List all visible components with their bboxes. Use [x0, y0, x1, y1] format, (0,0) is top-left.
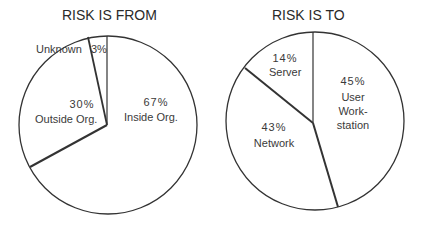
label-user-pct: 45% [338, 75, 368, 88]
label-user-1: User [336, 91, 370, 104]
risk-to-pie [226, 32, 404, 210]
label-user-3: station [331, 119, 375, 132]
label-outside-org: Outside Org. [35, 113, 97, 126]
label-inside-org: Inside Org. [124, 111, 178, 124]
chart-title-risk-from: RISK IS FROM [62, 9, 157, 22]
chart-title-risk-to: RISK IS TO [272, 9, 345, 22]
label-server: Server [269, 66, 301, 79]
label-server-pct: 14% [270, 52, 300, 65]
label-unknown: Unknown [36, 43, 82, 56]
label-unknown-pct: 3% [91, 43, 107, 56]
label-user-2: Work- [336, 105, 370, 118]
label-inside-pct: 67% [136, 96, 176, 109]
label-outside-pct: 30% [60, 98, 104, 111]
label-network-pct: 43% [259, 121, 289, 134]
label-network: Network [252, 137, 296, 150]
